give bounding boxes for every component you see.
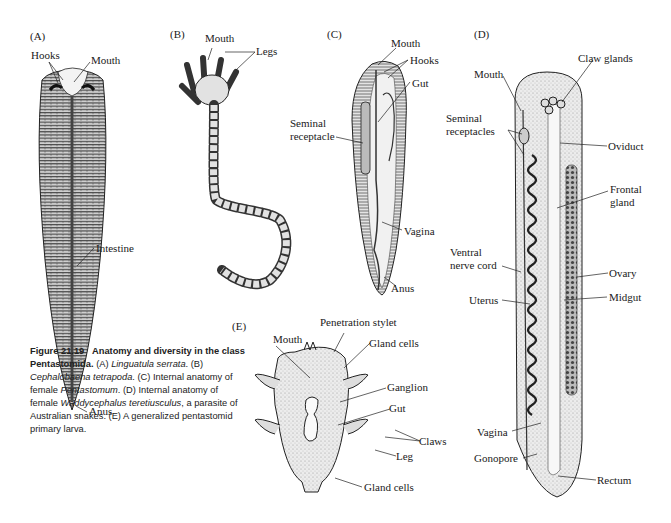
caption-part: Linguatula serrata bbox=[111, 359, 185, 369]
label-ganglion: Ganglion bbox=[387, 381, 428, 393]
label-seminal-d-1: Seminal bbox=[446, 112, 482, 124]
label-ventral-2: nerve cord bbox=[450, 259, 497, 271]
label-seminal-c-1: Seminal bbox=[290, 117, 326, 129]
panel-d-tag: (D) bbox=[474, 28, 489, 40]
label-vagina-d: Vagina bbox=[477, 426, 508, 438]
label-anus-c: Anus bbox=[391, 282, 414, 294]
label-mouth-e: Mouth bbox=[273, 333, 302, 345]
figure-caption: Figure 21.19 Anatomy and diversity in th… bbox=[30, 345, 245, 436]
illustrations bbox=[0, 0, 671, 523]
label-gut-c: Gut bbox=[412, 77, 429, 89]
label-mouth-b: Mouth bbox=[205, 32, 234, 44]
label-frontal-2: gland bbox=[610, 196, 634, 208]
panel-c-tag: (C) bbox=[327, 28, 342, 40]
label-ovary: Ovary bbox=[609, 267, 637, 279]
caption-part: Waddycephalus teretiusculus bbox=[61, 398, 182, 408]
label-mouth-d: Mouth bbox=[474, 68, 503, 80]
label-oviduct: Oviduct bbox=[608, 140, 643, 152]
label-uterus: Uterus bbox=[469, 294, 498, 306]
waddycephalus-body bbox=[515, 72, 582, 497]
label-claws: Claws bbox=[419, 435, 447, 447]
panel-e-tag: (E) bbox=[232, 320, 246, 332]
label-gland-cells-bottom: Gland cells bbox=[364, 481, 414, 493]
label-legs: Legs bbox=[256, 45, 277, 57]
label-hooks-a: Hooks bbox=[31, 49, 60, 61]
label-gland-cells-top: Gland cells bbox=[369, 337, 419, 349]
label-mouth-c: Mouth bbox=[391, 37, 420, 49]
panel-a-tag: (A) bbox=[30, 30, 45, 42]
label-penetration-stylet: Penetration stylet bbox=[320, 316, 397, 328]
label-mouth-a: Mouth bbox=[91, 54, 120, 66]
label-gonopore: Gonopore bbox=[474, 452, 518, 464]
label-seminal-d-2: receptacles bbox=[446, 125, 495, 137]
label-claw-glands: Claw glands bbox=[578, 52, 633, 64]
caption-part: Cephalobaena tetrapoda bbox=[30, 372, 132, 382]
caption-part: (A) bbox=[96, 359, 111, 369]
label-gut-e: Gut bbox=[389, 402, 406, 414]
label-seminal-c-2: receptacle bbox=[290, 130, 335, 142]
caption-part: . (B) bbox=[186, 359, 204, 369]
label-leg: Leg bbox=[396, 450, 413, 462]
cephalobaena-body bbox=[182, 58, 286, 284]
label-hooks-c: Hooks bbox=[410, 54, 439, 66]
panel-b-leaders bbox=[208, 48, 255, 70]
larva-body bbox=[255, 342, 368, 492]
label-vagina-c: Vagina bbox=[404, 225, 435, 237]
label-ventral-1: Ventral bbox=[450, 246, 482, 258]
caption-part: Pentastomum bbox=[61, 385, 118, 395]
panel-b-tag: (B) bbox=[170, 28, 185, 40]
figure-number: Figure 21.19 bbox=[30, 346, 84, 356]
label-midgut: Midgut bbox=[609, 291, 641, 303]
label-frontal-1: Frontal bbox=[610, 183, 642, 195]
label-rectum: Rectum bbox=[597, 474, 631, 486]
label-intestine: Intestine bbox=[96, 242, 134, 254]
